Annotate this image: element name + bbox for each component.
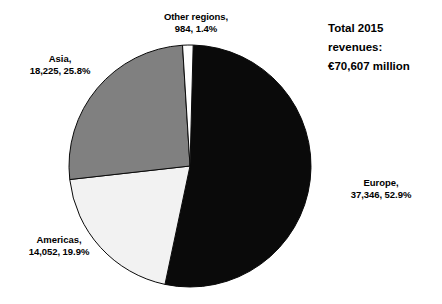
slice-label-americas-name: Americas, bbox=[0, 234, 118, 246]
slice-label-americas-value: 14,052, 19.9% bbox=[0, 246, 118, 258]
slice-label-americas: Americas, 14,052, 19.9% bbox=[0, 234, 118, 257]
slice-label-other-regions: Other regions, 984, 1.4% bbox=[126, 11, 266, 34]
slice-label-europe-value: 37,346, 52.9% bbox=[322, 189, 440, 201]
slice-label-other-regions-value: 984, 1.4% bbox=[126, 23, 266, 35]
pie-chart-figure: Other regions, 984, 1.4% Asia, 18,225, 2… bbox=[0, 0, 442, 304]
slice-label-asia-value: 18,225, 25.8% bbox=[0, 65, 120, 77]
total-revenues-line-1: Total 2015 bbox=[328, 19, 442, 38]
total-revenues-line-2: revenues: bbox=[328, 38, 442, 57]
slice-label-asia-name: Asia, bbox=[0, 53, 120, 65]
slice-label-asia: Asia, 18,225, 25.8% bbox=[0, 53, 120, 76]
slice-label-europe-name: Europe, bbox=[322, 177, 440, 189]
slice-label-europe: Europe, 37,346, 52.9% bbox=[322, 177, 440, 200]
slice-label-other-regions-name: Other regions, bbox=[126, 11, 266, 23]
total-revenues-line-3: €70,607 million bbox=[328, 57, 442, 76]
total-revenues-annotation: Total 2015 revenues: €70,607 million bbox=[328, 19, 442, 76]
